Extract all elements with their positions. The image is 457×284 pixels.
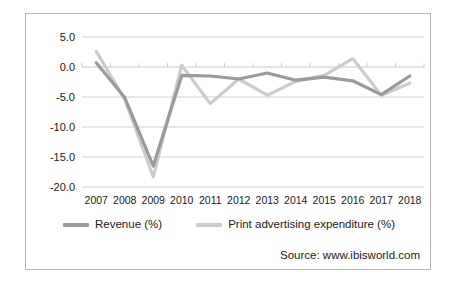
- x-axis-tick-label: 2012: [227, 194, 251, 206]
- y-axis-tick-label: 0.0: [60, 61, 75, 73]
- series-lines: [96, 51, 410, 176]
- source-row: Source: www.ibisworld.com: [26, 242, 432, 268]
- source-attribution: Source: www.ibisworld.com: [280, 249, 420, 261]
- y-axis-tick-labels: 5.00.0-5.0-10.0-15.0-20.0: [50, 31, 75, 193]
- x-axis-tick-label: 2008: [113, 194, 137, 206]
- line-chart-svg: 5.00.0-5.0-10.0-15.0-20.0 20072008200920…: [26, 14, 432, 212]
- legend-item-print-advertising: Print advertising expenditure (%): [196, 219, 395, 231]
- x-axis-tick-label: 2016: [341, 194, 365, 206]
- x-axis-tick-label: 2007: [85, 194, 109, 206]
- chart-legend: Revenue (%) Print advertising expenditur…: [26, 212, 432, 238]
- y-axis-tick-label: -5.0: [56, 91, 75, 103]
- x-axis-tick-labels: 2007200820092010201120122013201420152016…: [85, 194, 422, 206]
- chart-plot-area: 5.00.0-5.0-10.0-15.0-20.0 20072008200920…: [26, 14, 432, 212]
- y-axis-tick-label: -20.0: [50, 181, 75, 193]
- x-axis-tick-label: 2018: [398, 194, 422, 206]
- x-axis-tick-label: 2015: [313, 194, 337, 206]
- legend-label-revenue: Revenue (%): [95, 219, 162, 231]
- chart-card: 5.00.0-5.0-10.0-15.0-20.0 20072008200920…: [25, 13, 431, 270]
- x-axis-tick-label: 2010: [170, 194, 194, 206]
- legend-label-print-advertising: Print advertising expenditure (%): [228, 219, 395, 231]
- x-axis-tick-marks: [82, 63, 424, 67]
- x-axis-tick-label: 2013: [256, 194, 280, 206]
- legend-item-revenue: Revenue (%): [63, 219, 162, 231]
- gridlines: [82, 37, 424, 187]
- series-line-print-advertising-expenditure: [96, 51, 410, 176]
- x-axis-tick-label: 2009: [142, 194, 166, 206]
- y-axis-tick-label: -10.0: [50, 121, 75, 133]
- x-axis-tick-label: 2017: [370, 194, 394, 206]
- y-axis-tick-label: -15.0: [50, 151, 75, 163]
- legend-swatch-print-advertising: [196, 223, 222, 227]
- x-axis-tick-label: 2014: [284, 194, 308, 206]
- legend-swatch-revenue: [63, 223, 89, 227]
- y-axis-tick-label: 5.0: [60, 31, 75, 43]
- x-axis-tick-label: 2011: [199, 194, 222, 206]
